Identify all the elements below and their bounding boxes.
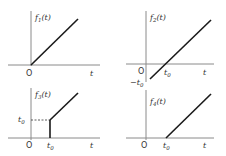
neg-t0-label: −t0 (130, 78, 144, 88)
origin-label: O (141, 141, 147, 150)
panel-f2: f2(t) O t0 t −t0 (126, 11, 214, 88)
t0-tick-label: t0 (47, 141, 54, 151)
t-label: t (203, 68, 207, 77)
origin-label: O (138, 67, 144, 76)
f2-title: f2(t) (149, 13, 166, 23)
shifted-ramp-curve (150, 20, 211, 79)
f1-title: f1(t) (34, 13, 51, 23)
t-label: t (90, 141, 94, 150)
t0-tick-label: t0 (163, 141, 170, 151)
ramp-curve (31, 19, 78, 65)
origin-label: O (26, 69, 32, 78)
panel-f1: f1(t) O t (8, 11, 100, 78)
f3-title: f3(t) (34, 90, 51, 100)
origin-label: O (26, 141, 32, 150)
t0-tick-label: t0 (164, 68, 171, 78)
panel-f4: f4(t) O t0 t (126, 90, 214, 151)
panel-f3: f3(t) t0 O t0 t (8, 88, 100, 151)
t-label: t (203, 141, 207, 150)
f4-title: f4(t) (149, 97, 166, 107)
function-plots-diagram: f1(t) O t f2(t) O t0 t −t0 f3(t) t0 O t0… (0, 0, 226, 156)
ramp-segment (50, 93, 78, 120)
delayed-ramp-curve (166, 94, 211, 138)
y-t0-label: t0 (18, 115, 25, 125)
t-label: t (90, 69, 94, 78)
